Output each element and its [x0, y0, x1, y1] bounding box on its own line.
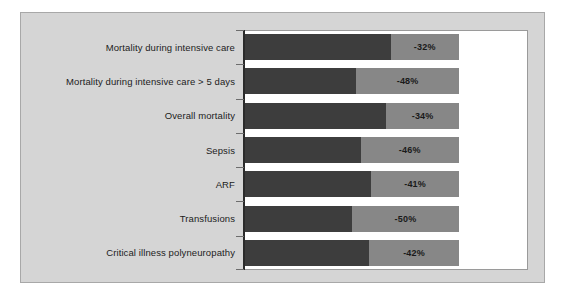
stacked-bar: -46%: [245, 137, 459, 163]
bar-segment-remainder: [245, 137, 361, 163]
bar-segment-remainder: [245, 68, 356, 94]
bar-value-label: -34%: [412, 111, 434, 121]
bar-segment-remainder: [245, 206, 352, 232]
bar-segment-remainder: [245, 34, 391, 60]
bar-segment-remainder: [245, 171, 371, 197]
stacked-bar: -32%: [245, 34, 459, 60]
bar-segment-reduction: -48%: [356, 68, 459, 94]
chart-figure: Mortality during intensive care-32%Morta…: [20, 12, 545, 283]
stacked-bar: -34%: [245, 103, 459, 129]
category-label: Sepsis: [25, 145, 235, 156]
axis-tick: [236, 236, 244, 237]
bar-row: Mortality during intensive care > 5 days…: [21, 68, 546, 94]
bar-segment-reduction: -42%: [369, 240, 459, 266]
category-label: Transfusions: [25, 213, 235, 224]
bar-value-label: -48%: [397, 76, 419, 86]
bar-row: Sepsis-46%: [21, 137, 546, 163]
bar-rows: Mortality during intensive care-32%Morta…: [21, 30, 546, 270]
bar-row: Transfusions-50%: [21, 206, 546, 232]
axis-tick: [236, 201, 244, 202]
stacked-bar: -42%: [245, 240, 459, 266]
category-label: Overall mortality: [25, 110, 235, 121]
category-label: Mortality during intensive care: [25, 42, 235, 53]
category-label: Critical illness polyneuropathy: [25, 247, 235, 258]
axis-tick: [236, 167, 244, 168]
category-label: Mortality during intensive care > 5 days: [25, 76, 235, 87]
category-label: ARF: [25, 179, 235, 190]
bar-row: Mortality during intensive care-32%: [21, 34, 546, 60]
bar-segment-reduction: -34%: [386, 103, 459, 129]
bar-row: ARF-41%: [21, 171, 546, 197]
stacked-bar: -48%: [245, 68, 459, 94]
bar-row: Critical illness polyneuropathy-42%: [21, 240, 546, 266]
bar-segment-reduction: -46%: [361, 137, 459, 163]
axis-tick: [236, 133, 244, 134]
bar-segment-remainder: [245, 240, 369, 266]
axis-tick: [236, 99, 244, 100]
bar-segment-reduction: -50%: [352, 206, 459, 232]
bar-row: Overall mortality-34%: [21, 103, 546, 129]
axis-tick: [236, 269, 244, 270]
bar-segment-reduction: -41%: [371, 171, 459, 197]
bar-value-label: -42%: [403, 248, 425, 258]
bar-value-label: -46%: [399, 145, 421, 155]
stacked-bar: -41%: [245, 171, 459, 197]
bar-value-label: -32%: [414, 42, 436, 52]
bar-segment-reduction: -32%: [391, 34, 459, 60]
bar-value-label: -50%: [395, 214, 417, 224]
axis-tick: [236, 30, 244, 31]
stacked-bar: -50%: [245, 206, 459, 232]
bar-segment-remainder: [245, 103, 386, 129]
bar-value-label: -41%: [404, 179, 426, 189]
axis-tick: [236, 64, 244, 65]
